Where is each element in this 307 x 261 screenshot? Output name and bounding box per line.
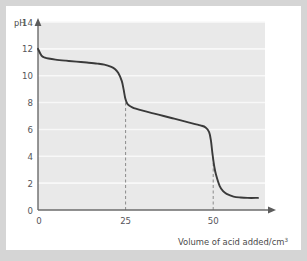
titration-chart: 14 12 10 8 6 4 2 0 0 25 50 pH (6, 6, 301, 250)
y-tick-label: 2 (28, 179, 33, 189)
x-tick-label: 0 (36, 216, 41, 226)
x-tick-labels: 0 25 50 (36, 216, 218, 226)
y-tick-label: 6 (28, 125, 33, 135)
y-axis-title: pH (14, 18, 25, 28)
y-tick-label: 12 (22, 44, 33, 54)
y-tick-label: 8 (28, 98, 33, 108)
y-tick-label: 4 (28, 152, 33, 162)
y-tick-label: 10 (22, 71, 33, 81)
x-tick-label: 25 (120, 216, 131, 226)
x-tick-label: 50 (208, 216, 219, 226)
plot-background (38, 22, 265, 210)
x-axis-title: Volume of acid added/cm3 (178, 237, 288, 248)
screenshot-root: 14 12 10 8 6 4 2 0 0 25 50 pH (0, 0, 307, 261)
x-axis-title-text: Volume of acid added/cm (178, 237, 284, 247)
figure-card: 14 12 10 8 6 4 2 0 0 25 50 pH (6, 6, 301, 250)
x-axis-title-superscript: 3 (284, 237, 288, 243)
y-tick-label: 0 (28, 206, 33, 216)
y-tick-labels: 14 12 10 8 6 4 2 0 (22, 18, 33, 216)
